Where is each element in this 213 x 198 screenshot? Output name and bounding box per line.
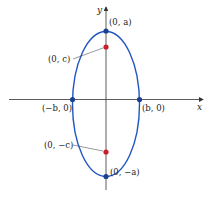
bottom-vertex-point xyxy=(103,174,108,179)
focus-leader-bottom xyxy=(73,145,103,151)
bottom-focus-label: (0, −c) xyxy=(44,141,73,150)
top-focus-point xyxy=(103,44,108,49)
left-covertex-label: (−b, 0) xyxy=(42,104,72,113)
y-axis-label: y xyxy=(97,6,102,15)
left-covertex-point xyxy=(70,97,75,102)
right-covertex-point xyxy=(137,97,142,102)
top-focus-label: (0, c) xyxy=(48,55,70,64)
bottom-vertex-label: (0, −a) xyxy=(110,168,140,177)
bottom-focus-point xyxy=(103,149,108,154)
top-vertex-point xyxy=(103,28,108,33)
x-axis-label: x xyxy=(197,103,202,112)
right-covertex-label: (b, 0) xyxy=(142,104,165,113)
focus-leader-top xyxy=(73,48,103,59)
top-vertex-label: (0, a) xyxy=(109,18,132,27)
ellipse-diagram xyxy=(0,0,213,198)
